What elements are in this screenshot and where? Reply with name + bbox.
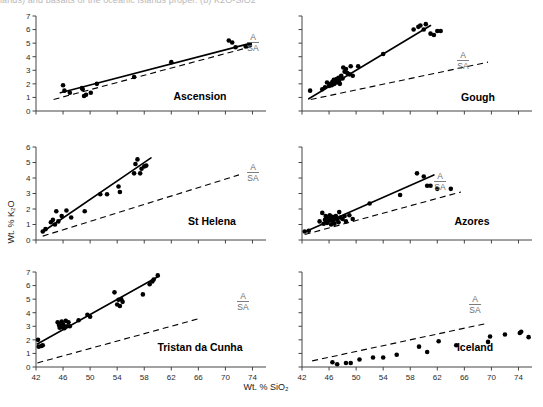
- data-point: [62, 88, 67, 93]
- data-point: [141, 292, 146, 297]
- data-point: [306, 228, 311, 233]
- panel-title: Tristan da Cunha: [157, 341, 242, 353]
- data-point: [118, 190, 123, 195]
- data-point: [133, 162, 138, 167]
- data-point: [417, 344, 422, 349]
- data-point: [51, 218, 56, 223]
- y-tick-label: 2: [26, 336, 31, 345]
- panel-tristan-da-cunha: 01234567424650545862667074ASATristan da …: [26, 268, 266, 382]
- divider-label-a: A: [437, 171, 443, 181]
- x-tick-label: 74: [514, 373, 523, 382]
- x-tick-label: 46: [59, 373, 68, 382]
- y-tick-label: 4: [26, 53, 31, 62]
- data-point: [344, 361, 349, 366]
- data-point: [418, 23, 423, 28]
- data-point: [350, 73, 355, 78]
- x-tick-label: 66: [460, 373, 469, 382]
- data-point: [80, 87, 85, 92]
- divider-label-sa: SA: [247, 43, 259, 53]
- data-point: [438, 29, 443, 34]
- y-tick-label: 1: [26, 220, 31, 229]
- x-tick-label: 70: [221, 373, 230, 382]
- data-point: [332, 221, 337, 226]
- divider-label-sa: SA: [247, 173, 259, 183]
- data-point: [54, 209, 59, 214]
- data-point: [84, 92, 89, 97]
- data-point: [342, 214, 347, 219]
- divider-label-a: A: [240, 291, 246, 301]
- divider-label-a: A: [250, 162, 256, 172]
- data-point: [330, 360, 335, 365]
- panel-azores: ASAAzores: [299, 147, 533, 244]
- data-point: [381, 52, 386, 57]
- panel-gough: ASAGough: [299, 16, 533, 115]
- data-point: [116, 184, 121, 189]
- x-tick-label: 50: [352, 373, 361, 382]
- data-point: [411, 27, 416, 32]
- axis-lines: [36, 16, 266, 111]
- data-point: [132, 171, 137, 176]
- data-point: [302, 229, 307, 234]
- data-point: [381, 355, 386, 360]
- data-point: [421, 27, 426, 32]
- data-point: [519, 329, 524, 334]
- trend-line: [37, 276, 159, 344]
- y-tick-label: 5: [26, 295, 31, 304]
- data-point: [344, 219, 349, 224]
- data-point: [144, 163, 149, 168]
- data-points: [302, 171, 453, 234]
- data-point: [371, 355, 376, 360]
- y-tick-label: 6: [26, 281, 31, 290]
- panel-ascension: 01234567ASAAscension: [26, 12, 266, 116]
- data-point: [132, 75, 137, 80]
- y-tick-label: 0: [26, 107, 31, 116]
- data-point: [169, 60, 174, 65]
- data-point: [394, 352, 399, 357]
- x-tick-label: 62: [167, 373, 176, 382]
- divider-label-sa: SA: [457, 61, 469, 71]
- x-tick-label: 58: [406, 373, 415, 382]
- data-point: [88, 314, 93, 319]
- data-point: [323, 85, 328, 90]
- data-point: [428, 183, 433, 188]
- data-point: [308, 88, 313, 93]
- y-tick-label: 1: [26, 349, 31, 358]
- panel-title: Iceland: [457, 341, 493, 353]
- x-tick-label: 70: [487, 373, 496, 382]
- data-point: [61, 83, 66, 88]
- panel-iceland: 424650545862667074ASAIceland: [298, 272, 532, 382]
- data-point: [95, 82, 100, 87]
- data-point: [230, 40, 235, 45]
- x-tick-label: 62: [433, 373, 442, 382]
- x-tick-label: 42: [298, 373, 307, 382]
- divider-label-a: A: [250, 32, 256, 42]
- data-point: [112, 290, 117, 295]
- data-point: [151, 277, 156, 282]
- y-tick-label: 3: [26, 322, 31, 331]
- data-point: [488, 334, 493, 339]
- axis-lines: [302, 272, 532, 367]
- x-tick-label: 46: [325, 373, 334, 382]
- data-point: [338, 82, 343, 87]
- y-tick-label: 2: [26, 205, 31, 214]
- x-tick-label: 58: [140, 373, 149, 382]
- data-point: [432, 33, 437, 38]
- data-point: [415, 171, 420, 176]
- data-point: [118, 304, 123, 309]
- data-point: [423, 22, 428, 27]
- divider-label-sa: SA: [434, 182, 446, 192]
- data-point: [398, 193, 403, 198]
- alkaline-subalkaline-divider-line: [305, 192, 461, 235]
- data-point: [337, 210, 342, 215]
- y-tick-label: 7: [26, 268, 31, 277]
- data-point: [76, 318, 81, 323]
- data-point: [356, 64, 361, 69]
- data-point: [82, 209, 87, 214]
- data-point: [335, 362, 340, 367]
- panel-title: Ascension: [173, 90, 226, 102]
- y-tick-label: 4: [26, 174, 31, 183]
- data-point: [98, 192, 103, 197]
- y-tick-label: 5: [26, 39, 31, 48]
- data-points: [308, 22, 443, 93]
- axis-lines: [302, 16, 532, 111]
